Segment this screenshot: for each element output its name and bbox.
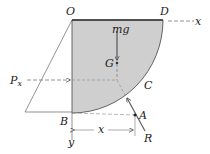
label-b: B xyxy=(59,115,68,128)
label-g: G xyxy=(105,57,114,70)
construction-triangle xyxy=(25,20,72,112)
free-body-diagram: O D x mg G Px C A B R x y xyxy=(0,0,210,154)
label-mg: mg xyxy=(112,23,129,36)
label-x-dimension: x xyxy=(98,123,105,136)
label-d: D xyxy=(159,5,169,18)
label-c: C xyxy=(144,79,153,92)
x-dimension xyxy=(74,116,135,136)
label-r: R xyxy=(143,132,152,145)
label-px: Px xyxy=(9,74,22,88)
label-x-axis: x xyxy=(195,15,202,28)
label-a: A xyxy=(138,109,147,122)
label-o: O xyxy=(66,5,75,18)
label-y-axis: y xyxy=(67,136,75,149)
b-to-a-dashed xyxy=(72,113,135,115)
center-of-mass-point xyxy=(116,62,119,65)
